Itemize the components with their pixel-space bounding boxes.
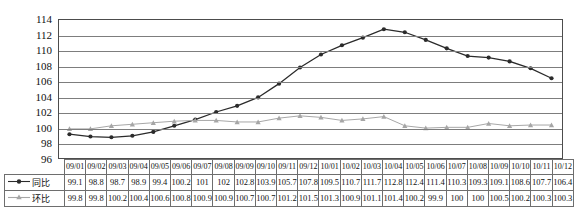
table-cell: 105.7 (277, 175, 298, 191)
data-table-wrap: 09/0109/0209/0309/0409/0509/0609/0709/08… (0, 159, 577, 207)
gridline (59, 113, 562, 114)
data-point-marker (382, 27, 386, 31)
y-axis: 9698100102104106108110112114 (0, 0, 57, 175)
line-chart-plot: 9698100102104106108110112114 (0, 0, 577, 175)
table-cell: 109.1 (489, 175, 510, 191)
x-axis-tick-label: 10/08 (467, 160, 488, 175)
table-cell: 99.4 (149, 175, 170, 191)
data-point-marker (130, 134, 134, 138)
table-cell: 111.4 (425, 175, 446, 191)
chart-figure: 9698100102104106108110112114 09/0109/020… (0, 0, 577, 224)
gridline (59, 51, 562, 52)
data-point-marker (508, 59, 512, 63)
x-axis-tick-label: 09/01 (65, 160, 86, 175)
x-axis-tick-label: 10/03 (361, 160, 382, 175)
data-point-marker (67, 132, 71, 136)
table-cell: 100 (467, 190, 488, 206)
table-cell: 99.8 (65, 190, 86, 206)
table-cell: 100.2 (107, 190, 128, 206)
gridline (59, 82, 562, 83)
data-point-marker (88, 134, 92, 138)
x-axis-tick-label: 09/04 (128, 160, 149, 175)
y-axis-tick-label: 102 (36, 107, 53, 118)
table-row: 同比99.198.898.798.999.4100.2101102102.810… (5, 175, 574, 191)
table-corner (5, 160, 65, 175)
table-cell: 100.7 (255, 190, 276, 206)
table-cell: 110.3 (446, 175, 467, 191)
table-cell: 100.7 (234, 190, 255, 206)
data-point-marker (319, 52, 323, 56)
table-cell: 101.4 (383, 190, 404, 206)
table-cell: 101.5 (298, 190, 319, 206)
gridline (59, 67, 562, 68)
table-cell: 101.3 (319, 190, 340, 206)
x-axis-tick-label: 10/04 (383, 160, 404, 175)
plot-area (58, 19, 563, 159)
legend-entry-tongbi: 同比 (5, 175, 65, 191)
table-cell: 108.6 (510, 175, 531, 191)
table-cell: 100.2 (510, 190, 531, 206)
table-cell: 109.3 (467, 175, 488, 191)
y-axis-tick-label: 110 (36, 45, 52, 56)
gridline (59, 129, 562, 130)
table-cell: 100 (446, 190, 467, 206)
table-cell: 109.5 (319, 175, 340, 191)
x-axis-tick-label: 10/02 (340, 160, 361, 175)
y-axis-tick-label: 112 (36, 29, 52, 40)
x-axis-tick-label: 10/11 (531, 160, 552, 175)
x-axis-tick-label: 09/08 (213, 160, 234, 175)
x-axis-tick-label: 10/07 (446, 160, 467, 175)
x-axis-tick-label: 10/09 (489, 160, 510, 175)
gridline (59, 144, 562, 145)
legend-label: 环比 (32, 194, 50, 204)
x-axis-tick-label: 09/09 (234, 160, 255, 175)
table-cell: 99.9 (425, 190, 446, 206)
table-header-row: 09/0109/0209/0309/0409/0509/0609/0709/08… (5, 160, 574, 175)
y-axis-tick-label: 98 (41, 138, 52, 149)
data-point-marker (172, 124, 176, 128)
legend-entry-huanbi: 环比 (5, 190, 65, 206)
table-cell: 100.4 (128, 190, 149, 206)
x-axis-tick-label: 09/06 (171, 160, 192, 175)
table-cell: 107.7 (531, 175, 552, 191)
gridline (59, 98, 562, 99)
y-axis-tick-label: 106 (36, 76, 53, 87)
x-axis-tick-label: 09/11 (277, 160, 298, 175)
data-point-marker (340, 43, 344, 47)
x-axis-tick-label: 09/12 (298, 160, 319, 175)
x-axis-tick-label: 09/05 (149, 160, 170, 175)
triangle-marker-icon (8, 192, 30, 206)
x-axis-tick-label: 09/02 (86, 160, 107, 175)
x-axis-tick-label: 09/07 (192, 160, 213, 175)
data-point-marker (109, 135, 113, 139)
table-cell: 98.7 (107, 175, 128, 191)
table-cell: 100.9 (192, 190, 213, 206)
x-axis-tick-label: 10/10 (510, 160, 531, 175)
table-cell: 100.3 (552, 190, 573, 206)
table-cell: 112.8 (383, 175, 404, 191)
table-cell: 100.9 (340, 190, 361, 206)
data-point-marker (424, 38, 428, 42)
series-line (69, 29, 551, 137)
data-point-marker (466, 54, 470, 58)
table-cell: 100.3 (531, 190, 552, 206)
table-cell: 101.2 (277, 190, 298, 206)
y-axis-tick-label: 104 (36, 91, 53, 102)
series-tongbi (67, 27, 553, 139)
table-cell: 100.8 (171, 190, 192, 206)
x-axis-tick-label: 10/05 (404, 160, 425, 175)
table-cell: 100.9 (213, 190, 234, 206)
table-cell: 98.8 (86, 175, 107, 191)
data-table: 09/0109/0209/0309/0409/0509/0609/0709/08… (4, 159, 574, 207)
series-layer (59, 20, 562, 158)
table-cell: 107.8 (298, 175, 319, 191)
data-point-marker (445, 46, 449, 50)
table-cell: 102 (213, 175, 234, 191)
data-point-marker (487, 55, 491, 59)
table-cell: 100.2 (171, 175, 192, 191)
x-axis-tick-label: 09/10 (255, 160, 276, 175)
data-point-marker (403, 30, 407, 34)
series-line (69, 116, 551, 129)
table-cell: 111.7 (361, 175, 382, 191)
x-axis-tick-label: 10/12 (552, 160, 573, 175)
